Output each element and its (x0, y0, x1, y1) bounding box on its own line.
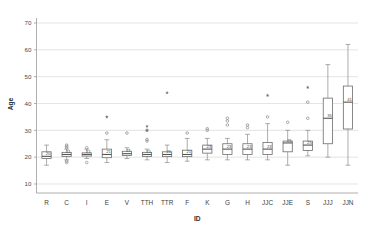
box-G: 23 (223, 117, 232, 160)
x-tick-label-K: K (205, 199, 210, 206)
x-tick-label-JJC: JJC (262, 199, 273, 206)
y-tick-label: 20 (25, 153, 32, 160)
box-TTR: 21 (162, 91, 171, 163)
outlier-circle (226, 124, 229, 127)
x-axis-title: ID (194, 215, 201, 222)
box-I: 21 (82, 146, 91, 163)
outlier-star (306, 86, 310, 89)
outlier-circle (266, 116, 269, 119)
y-tick-label: 60 (25, 46, 32, 53)
median-label: 21 (86, 149, 91, 154)
outlier-star (105, 115, 109, 118)
axis-lines-group (37, 18, 359, 193)
x-tick-label-I: I (86, 199, 88, 206)
boxes-group: 20212121212121212323232325253541 (42, 44, 353, 165)
outlier-circle (106, 132, 109, 135)
y-tick-label: 40 (25, 100, 32, 107)
outlier-circle (246, 126, 249, 129)
gridlines-group (37, 23, 359, 184)
median-label: 23 (267, 144, 272, 149)
median-label: 21 (187, 149, 192, 154)
box-K: 23 (203, 127, 212, 159)
box-body (343, 86, 352, 129)
box-S: 25 (303, 86, 312, 156)
median-label: 21 (66, 149, 71, 154)
median-label: 23 (247, 144, 252, 149)
outlier-circle (85, 161, 88, 164)
median-label: 21 (106, 149, 111, 154)
y-tick-label: 30 (25, 127, 32, 134)
box-TTH: 21 (142, 124, 151, 159)
median-label: 23 (227, 144, 232, 149)
box-JJN: 41 (343, 44, 352, 165)
x-tick-label-R: R (44, 199, 49, 206)
median-label: 41 (347, 97, 352, 102)
box-C: 21 (62, 144, 71, 164)
x-tick-label-JJE: JJE (282, 199, 293, 206)
median-label: 25 (287, 138, 292, 143)
x-tick-label-S: S (306, 199, 310, 206)
x-tick-labels-group: RCIEVTTHTTRFKGHJJCJJESJJJJJN (44, 199, 354, 206)
y-tick-label: 10 (25, 180, 32, 187)
x-tick-label-JJN: JJN (342, 199, 353, 206)
outlier-circle (226, 120, 229, 123)
median-label: 21 (146, 149, 151, 154)
x-tick-label-C: C (64, 199, 69, 206)
outlier-star (266, 94, 270, 97)
outlier-circle (186, 132, 189, 135)
x-tick-label-E: E (105, 199, 109, 206)
box-body (323, 98, 332, 144)
y-axis-title: Age (7, 97, 15, 110)
outlier-circle (126, 132, 129, 135)
outlier-circle (306, 117, 309, 120)
outlier-circle (306, 101, 309, 104)
boxplot-canvas: 10203040506070 2021212121212121232323232… (0, 0, 371, 232)
median-label: 21 (166, 149, 171, 154)
x-tick-label-JJJ: JJJ (323, 199, 333, 206)
outlier-circle (286, 121, 289, 124)
box-JJE: 25 (283, 121, 292, 165)
median-label: 23 (207, 144, 212, 149)
x-tick-label-V: V (125, 199, 130, 206)
box-V: 21 (122, 132, 131, 159)
box-E: 21 (102, 115, 111, 163)
x-tick-label-H: H (245, 199, 250, 206)
median-label: 20 (46, 151, 51, 156)
x-tick-label-TTR: TTR (161, 199, 174, 206)
outlier-star (145, 124, 149, 127)
median-label: 21 (126, 148, 131, 153)
median-label: 25 (307, 140, 312, 145)
median-label: 35 (327, 113, 332, 118)
y-tick-label: 70 (25, 19, 32, 26)
box-H: 23 (243, 124, 252, 160)
boxplot-figure: 10203040506070 2021212121212121232323232… (0, 0, 371, 232)
box-R: 20 (42, 145, 51, 165)
outlier-star (165, 91, 169, 94)
box-JJJ: 35 (323, 65, 332, 158)
x-tick-label-F: F (185, 199, 189, 206)
box-F: 21 (183, 132, 192, 161)
x-tick-label-TTH: TTH (141, 199, 154, 206)
y-tick-label: 50 (25, 73, 32, 80)
x-tick-label-G: G (225, 199, 230, 206)
y-tick-labels-group: 10203040506070 (25, 19, 37, 187)
outlier-circle (246, 124, 249, 127)
outlier-circle (226, 117, 229, 120)
